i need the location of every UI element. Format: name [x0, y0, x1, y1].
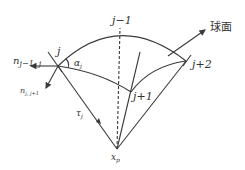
label-n-prev: nj−1, j [13, 55, 42, 68]
label-n-next: nj, j+1 [20, 86, 39, 97]
label-xp: xp [111, 152, 120, 164]
normal-arrow-next [46, 66, 58, 88]
tick-j-plus-2 [183, 55, 191, 66]
label-tau: τj [76, 108, 83, 120]
label-j: j [54, 45, 61, 58]
alpha-angle-arc [66, 59, 69, 68]
arc-j-to-j-plus-1 [58, 66, 131, 92]
label-j-plus-2: j+2 [189, 58, 212, 71]
spherical-polygon-diagram: j−1 j j+1 j+2 球面 nj−1, j nj, j+1 αj τj x… [0, 0, 245, 170]
label-j-plus-1: j+1 [130, 90, 153, 103]
label-alpha: αj [74, 58, 82, 70]
label-sphere: 球面 [210, 20, 232, 34]
dashed-xp-to-j-minus-1 [117, 28, 120, 149]
sphere-arrow [168, 30, 205, 56]
arc-j-plus-1-to-j-plus-2 [131, 61, 186, 92]
label-j-minus-1: j−1 [109, 14, 132, 27]
ray-xp-to-j [58, 66, 117, 149]
